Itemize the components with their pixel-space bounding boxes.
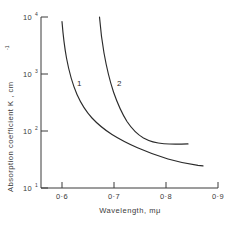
y-tick-label-10e2: 10 [23,127,32,136]
x-tick-label-0-6: 0·6 [56,192,68,201]
curve-label-1: 1 [77,79,82,88]
y-tick-label-10e2-exp: 2 [35,125,38,131]
y-tick-label-10e1-exp: 1 [35,182,38,188]
x-tick-labels: 0·6 0·7 0·8 0·9 [56,192,224,201]
absorption-coefficient-chart: 10 4 10 3 10 2 10 1 0·6 0·7 0·8 0·9 Wave… [0,0,233,227]
x-tick-label-0-9: 0·9 [212,192,224,201]
x-tick-label-0-8: 0·8 [160,192,172,201]
x-tick-label-0-7: 0·7 [108,192,120,201]
y-tick-label-10e3-exp: 3 [35,68,38,74]
curve-label-2: 2 [117,79,122,88]
x-axis-title: Wavelength, mμ [99,206,161,215]
y-axis-ticks [41,17,48,188]
y-tick-label-10e4: 10 [23,13,32,22]
y-tick-label-10e1: 10 [23,184,32,193]
y-axis-title-group: Absorption coefficient K , cm -1 [4,45,15,192]
y-axis-title-exponent: -1 [4,45,10,50]
curve-series-2 [100,17,189,144]
y-axis-title: Absorption coefficient K , cm [6,81,15,192]
y-tick-labels: 10 4 10 3 10 2 10 1 [23,11,38,193]
x-axis-ticks [62,182,218,188]
y-tick-label-10e4-exp: 4 [35,11,38,17]
y-tick-label-10e3: 10 [23,70,32,79]
chart-figure: 10 4 10 3 10 2 10 1 0·6 0·7 0·8 0·9 Wave… [0,0,233,227]
